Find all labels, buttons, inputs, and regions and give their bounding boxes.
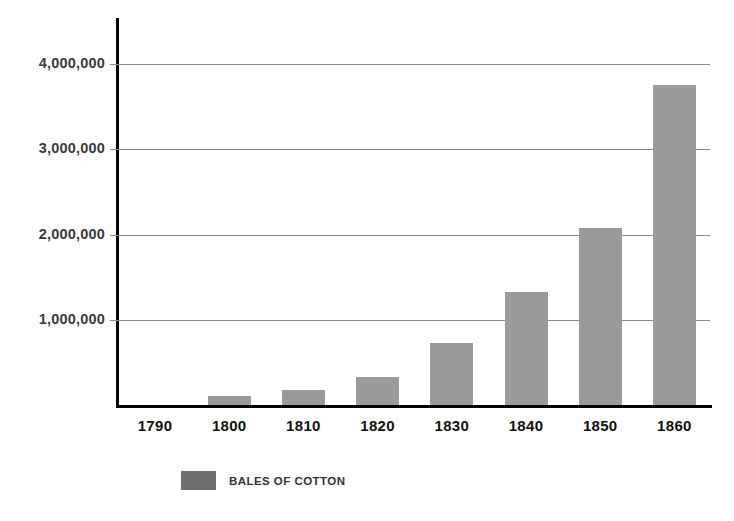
bar-1830 — [430, 343, 473, 405]
legend-color-swatch — [181, 471, 216, 490]
bar-chart-figure: 1,000,0002,000,0003,000,0004,000,000 179… — [0, 0, 734, 521]
x-axis-tick-label-1800: 1800 — [194, 417, 264, 434]
legend-label: BALES OF COTTON — [229, 475, 345, 487]
x-axis-tick-label-1810: 1810 — [268, 417, 338, 434]
bar-1860 — [653, 85, 696, 405]
bar-1800 — [208, 396, 251, 405]
chart-legend: BALES OF COTTON — [181, 471, 345, 490]
x-axis-tick-label-1820: 1820 — [343, 417, 413, 434]
x-axis-line — [116, 405, 712, 408]
bar-1810 — [282, 390, 325, 405]
bars-group — [0, 0, 734, 405]
x-axis-tick-label-1790: 1790 — [120, 417, 190, 434]
x-axis-tick-label-1860: 1860 — [639, 417, 709, 434]
bar-1820 — [356, 377, 399, 405]
x-axis-tick-label-1830: 1830 — [417, 417, 487, 434]
bar-1850 — [579, 228, 622, 405]
bar-1840 — [505, 292, 548, 405]
x-axis-tick-label-1840: 1840 — [491, 417, 561, 434]
x-axis-tick-label-1850: 1850 — [565, 417, 635, 434]
